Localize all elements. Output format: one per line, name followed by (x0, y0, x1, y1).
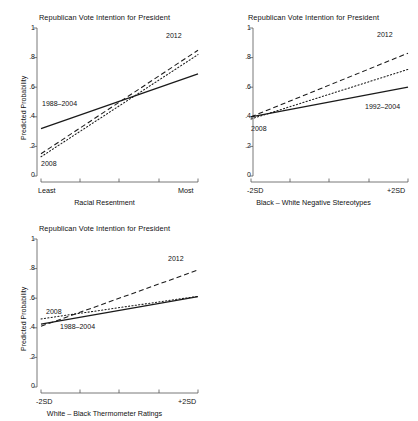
chart-panel-racial-resentment: Republican Vote Intention for President … (0, 0, 209, 210)
series-line-solid (41, 297, 198, 324)
plot-area (0, 0, 209, 210)
series-line-dashed (41, 270, 198, 326)
series-line-solid (41, 74, 198, 129)
plot-area (209, 0, 418, 210)
series-line-dotted (41, 296, 198, 319)
plot-area (0, 211, 209, 421)
chart-panel-thermometer-ratings: Republican Vote Intention for President … (0, 211, 209, 421)
chart-panel-negative-stereotypes: Republican Vote Intention for President … (209, 0, 418, 210)
series-line-dashed (41, 50, 198, 154)
series-line-dotted (251, 69, 408, 119)
series-line-solid (251, 87, 408, 117)
series-line-dashed (251, 53, 408, 117)
series-line-dotted (41, 55, 198, 157)
